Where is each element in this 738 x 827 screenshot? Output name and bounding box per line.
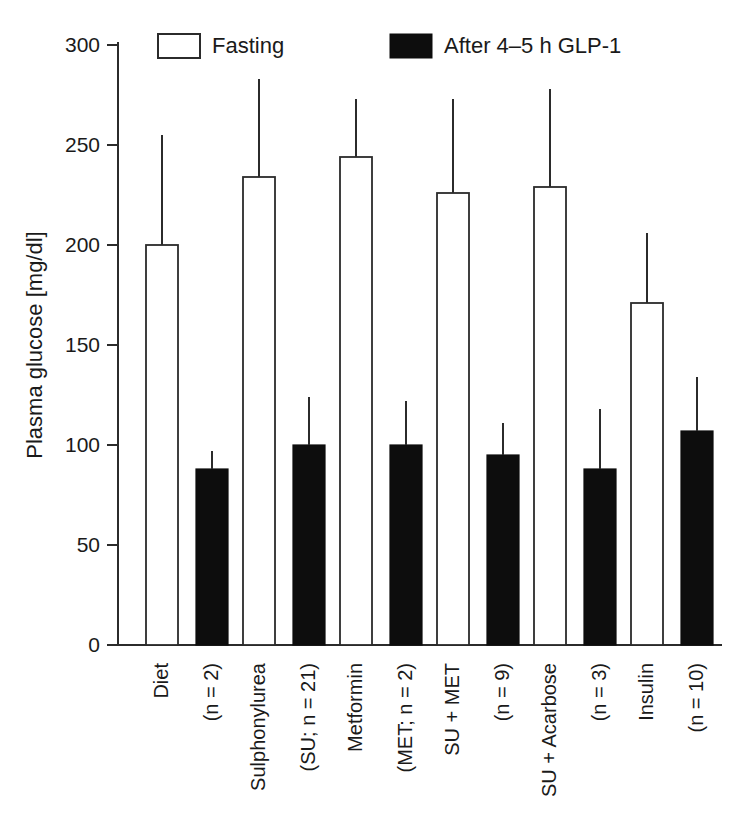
- legend-swatch-glp1: [390, 34, 432, 58]
- bar-glp1: [293, 445, 325, 645]
- legend-label: After 4–5 h GLP-1: [444, 33, 621, 58]
- bar-fasting: [534, 187, 566, 645]
- bar-fasting: [437, 193, 469, 645]
- bar-fasting: [340, 157, 372, 645]
- x-axis-category-label: (n = 9): [491, 663, 513, 721]
- y-axis-title-text: Plasma glucose [mg/dl]: [22, 231, 47, 458]
- chart-legend: FastingAfter 4–5 h GLP-1: [158, 33, 621, 58]
- y-axis-tick-label: 300: [65, 33, 100, 56]
- y-axis-tick-label: 200: [65, 233, 100, 256]
- category-labels: Diet(n = 2)Sulphonylurea(SU; n = 21)Metf…: [150, 662, 707, 797]
- x-axis-category-label: (n = 10): [685, 663, 707, 732]
- x-axis-category-label: Insulin: [635, 663, 657, 721]
- x-axis-category-label: Metformin: [344, 663, 366, 752]
- y-axis-tick-label: 50: [77, 533, 100, 556]
- x-axis-category-label: (SU; n = 21): [297, 663, 319, 771]
- bar-glp1: [487, 455, 519, 645]
- bar-glp1: [681, 431, 713, 645]
- legend-label: Fasting: [212, 33, 284, 58]
- chart-canvas: FastingAfter 4–5 h GLP-1 050100150200250…: [0, 0, 738, 827]
- x-axis-category-label: Diet: [150, 663, 172, 699]
- x-axis-category-label: Sulphonylurea: [247, 662, 269, 791]
- y-axis-tick-label: 100: [65, 433, 100, 456]
- x-axis-category-label: (n = 3): [588, 663, 610, 721]
- x-axis-category-label: (n = 2): [200, 663, 222, 721]
- bar-fasting: [631, 303, 663, 645]
- y-axis-tick-label: 150: [65, 333, 100, 356]
- y-axis-tick-label: 0: [88, 633, 100, 656]
- plasma-glucose-bar-chart: FastingAfter 4–5 h GLP-1 050100150200250…: [0, 0, 738, 827]
- bar-fasting: [243, 177, 275, 645]
- bar-glp1: [390, 445, 422, 645]
- x-axis-category-label: (MET; n = 2): [394, 663, 416, 772]
- y-axis-tick-label: 250: [65, 133, 100, 156]
- bar-glp1: [196, 469, 228, 645]
- legend-swatch-fasting: [158, 34, 200, 58]
- x-axis-category-label: SU + MET: [441, 663, 463, 756]
- bar-fasting: [146, 245, 178, 645]
- y-axis-title: Plasma glucose [mg/dl]: [22, 231, 47, 458]
- x-axis-category-label: SU + Acarbose: [538, 663, 560, 797]
- chart-bars: [146, 79, 713, 645]
- bar-glp1: [584, 469, 616, 645]
